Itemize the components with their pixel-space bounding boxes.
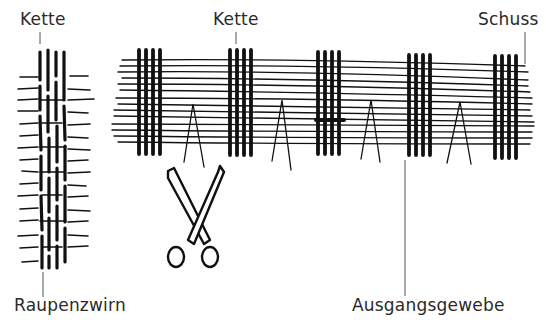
label-raupenzwirn: Raupenzwirn (14, 295, 126, 315)
label-kette-left: Kette (20, 9, 66, 29)
ausgangsgewebe-fabric (112, 50, 534, 170)
weaving-diagram (0, 0, 546, 333)
raupenzwirn-yarn (18, 50, 94, 268)
scissors-icon (168, 166, 224, 267)
label-schuss: Schuss (478, 9, 539, 29)
label-ausgangsgewebe: Ausgangsgewebe (352, 295, 505, 315)
label-kette-center: Kette (213, 9, 259, 29)
leader-lines (40, 32, 525, 297)
